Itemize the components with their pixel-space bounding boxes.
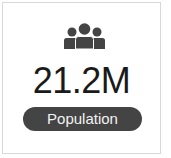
population-value: 21.2M: [3, 61, 160, 101]
people-group-icon: [63, 23, 106, 49]
population-stat-card: 21.2M Population: [2, 2, 161, 154]
population-label-badge: Population: [23, 107, 142, 131]
